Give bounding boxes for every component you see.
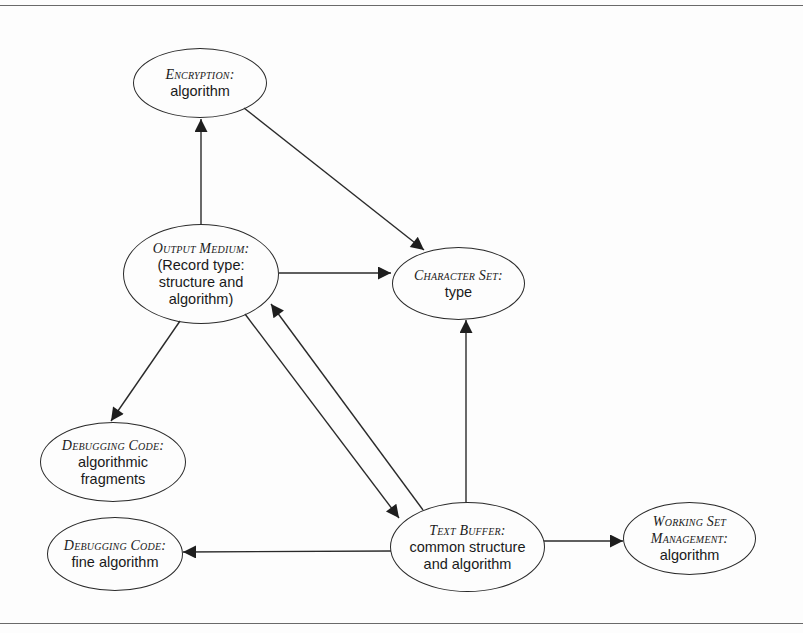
node-body-line: (Record type: (157, 257, 244, 274)
edge-textbuffer-to-output (271, 304, 423, 510)
node-title: Working Set (653, 513, 726, 530)
edge-textbuffer-to-debug-fine (183, 551, 391, 552)
node-title: Character Set: (414, 267, 503, 284)
node-character-set: Character Set: type (392, 247, 525, 320)
edge-encryption-to-charset (244, 108, 424, 250)
node-text-buffer: Text Buffer: common structure and algori… (390, 502, 545, 592)
node-body-line: algorithm) (169, 291, 233, 308)
node-body-line: fine algorithm (71, 554, 158, 571)
node-body-line: algorithmic (78, 454, 148, 471)
node-title: Output Medium: (153, 240, 250, 257)
diagram-canvas: Encryption: algorithm Output Medium: (Re… (0, 0, 803, 633)
node-encryption: Encryption: algorithm (133, 48, 267, 118)
node-body-line: structure and (159, 274, 244, 291)
node-title: Debugging Code: (64, 537, 166, 554)
node-debugging-code-fine: Debugging Code: fine algorithm (47, 517, 183, 591)
node-debugging-code-fragments: Debugging Code: algorithmic fragments (40, 422, 186, 502)
node-working-set: Working Set Management: algorithm (623, 502, 756, 575)
node-title: Management: (651, 530, 728, 547)
node-body-line: algorithm (660, 547, 720, 564)
node-body-line: algorithm (170, 83, 230, 100)
edge-output-to-textbuffer (245, 314, 399, 518)
node-body-line: and algorithm (424, 556, 512, 573)
node-body-line: type (445, 284, 472, 301)
node-output-medium: Output Medium: (Record type: structure a… (123, 224, 279, 324)
node-title: Text Buffer: (429, 522, 505, 539)
edge-output-to-debug-fragments (111, 321, 180, 421)
node-body-line: fragments (81, 471, 145, 488)
node-title: Debugging Code: (62, 437, 164, 454)
node-title: Encryption: (165, 66, 234, 83)
node-body-line: common structure (409, 539, 525, 556)
